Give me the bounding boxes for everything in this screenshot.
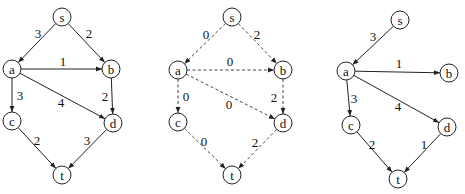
edge-weight-label: 0: [201, 134, 208, 149]
edge-a-b: 1: [21, 54, 102, 70]
node-t: t: [389, 170, 407, 188]
edge-weight-label: 3: [351, 91, 358, 106]
node-b: b: [274, 61, 292, 79]
edge-weight-label: 0: [227, 54, 234, 69]
edge-d-t: 3: [68, 129, 106, 168]
edge-weight-label: 0: [203, 27, 210, 42]
edge-s-b: 2: [68, 24, 105, 63]
node-d: d: [274, 114, 292, 132]
node-s: s: [223, 8, 241, 26]
edge-s-b: 2: [238, 23, 277, 63]
node-t: t: [53, 166, 71, 184]
node-label: s: [229, 10, 234, 25]
node-label: c: [348, 118, 354, 133]
node-label: t: [230, 168, 234, 183]
node-d: d: [104, 114, 122, 132]
edge-weight-label: 4: [58, 95, 65, 110]
edge-c-t: 2: [357, 132, 392, 172]
edge-s-a: 3: [353, 26, 394, 65]
node-label: t: [396, 172, 400, 187]
node-label: b: [280, 63, 287, 78]
node-label: d: [280, 116, 287, 131]
edge-a-c: 3: [347, 80, 357, 116]
edge-a-c: 0: [178, 79, 189, 113]
edge-weight-label: 2: [271, 90, 278, 105]
node-label: b: [108, 62, 115, 77]
edge-weight-label: 4: [395, 99, 402, 114]
edge-b-d: 2: [271, 79, 283, 114]
edge-s-a: 0: [184, 23, 225, 63]
node-label: a: [175, 63, 181, 78]
edge-weight-label: 2: [86, 26, 93, 41]
node-a: a: [3, 60, 21, 78]
edge-weight-label: 3: [35, 26, 42, 41]
edge-c-t: 0: [184, 128, 225, 168]
reduced-cost-graph: 02000202sabcdt: [169, 8, 292, 184]
edge-weight-label: 2: [254, 27, 261, 42]
edge-d-t: 1: [404, 134, 441, 173]
edge-a-d: 0: [186, 74, 275, 119]
edge-weight-label: 0: [183, 89, 190, 104]
edge-weight-label: 1: [421, 137, 428, 152]
node-a: a: [169, 61, 187, 79]
node-t: t: [223, 166, 241, 184]
node-d: d: [438, 118, 456, 136]
edge-weight-label: 3: [370, 29, 377, 44]
edge-s-a: 3: [18, 23, 56, 62]
shortest-path-tree: 313421sabcdt: [337, 11, 458, 188]
edge-weight-label: 1: [396, 56, 403, 71]
edge-weight-label: 3: [17, 88, 24, 103]
node-label: s: [397, 13, 402, 28]
node-label: b: [446, 66, 453, 81]
node-label: a: [9, 62, 15, 77]
edge-b-d: 2: [102, 78, 113, 114]
edge-a-b: 1: [355, 56, 440, 73]
edge-a-d: 4: [354, 75, 439, 122]
edge-line: [347, 80, 350, 116]
node-label: t: [60, 168, 64, 183]
node-c: c: [342, 116, 360, 134]
edge-line: [355, 71, 440, 73]
edge-d-t: 2: [238, 129, 276, 168]
edge-weight-label: 2: [34, 133, 41, 148]
edge-line: [111, 78, 112, 114]
edge-weight-label: 2: [252, 135, 259, 150]
node-a: a: [337, 62, 355, 80]
edge-weight-label: 3: [84, 133, 91, 148]
edge-weight-label: 1: [60, 54, 67, 69]
edge-a-b: 0: [187, 54, 274, 71]
node-label: d: [444, 120, 451, 135]
node-label: s: [59, 10, 64, 25]
node-label: a: [343, 64, 349, 79]
edge-weight-label: 0: [226, 97, 233, 112]
graph-canvas: 32134223sabcdt 02000202sabcdt 313421sabc…: [0, 0, 465, 194]
node-c: c: [3, 112, 21, 130]
node-label: c: [175, 115, 181, 130]
node-s: s: [391, 11, 409, 29]
edge-weight-label: 2: [102, 89, 109, 104]
edge-c-t: 2: [18, 128, 56, 169]
node-c: c: [169, 113, 187, 131]
node-label: d: [110, 116, 117, 131]
edge-a-d: 4: [20, 73, 105, 119]
edge-a-c: 3: [12, 78, 23, 112]
node-s: s: [53, 8, 71, 26]
original-graph: 32134223sabcdt: [3, 8, 122, 184]
edge-weight-label: 2: [369, 137, 376, 152]
node-b: b: [440, 64, 458, 82]
node-b: b: [102, 60, 120, 78]
node-label: c: [9, 114, 15, 129]
